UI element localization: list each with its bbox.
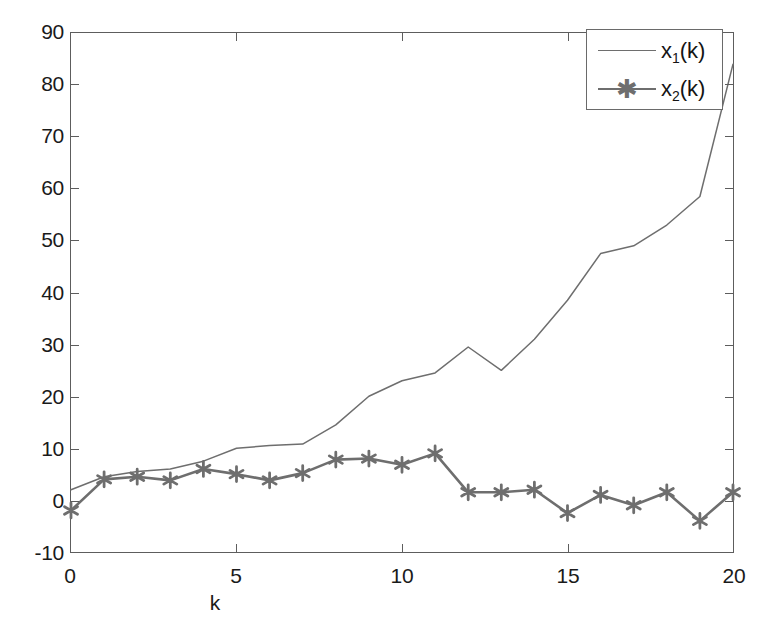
series-markers-x2(k) (65, 446, 740, 528)
legend-label-x1-tail: (k) (680, 38, 706, 63)
x-tick-label: 20 (723, 565, 746, 586)
x-tick-label: 5 (230, 565, 241, 586)
legend-entry-x1: x1(k) (587, 31, 722, 71)
y-tick-mark-right (725, 397, 734, 398)
legend-entry-x2: ✱ x2(k) (587, 69, 722, 109)
legend-label-x2-main: x (661, 76, 672, 101)
x-tick-label: 0 (64, 565, 75, 586)
y-tick-mark-right (725, 449, 734, 450)
y-tick-label: 90 (41, 21, 64, 42)
y-tick-mark (70, 397, 79, 398)
y-tick-mark-right (725, 84, 734, 85)
y-tick-mark-right (725, 188, 734, 189)
y-tick-label: 80 (41, 73, 64, 94)
legend-sample-x2: ✱ (595, 78, 659, 100)
y-tick-mark (70, 501, 79, 502)
y-tick-mark-right (725, 136, 734, 137)
x-axis-title-text: k (0, 591, 220, 614)
series-line-x1(k) (71, 64, 733, 490)
y-tick-mark-right (725, 240, 734, 241)
figure-canvas: -100102030405060708090 05101520 k x1(k) … (0, 0, 776, 640)
y-tick-mark (70, 449, 79, 450)
x-tick-mark (568, 544, 569, 553)
x-tick-mark-top (568, 32, 569, 41)
legend-box: x1(k) ✱ x2(k) (586, 29, 723, 110)
y-tick-mark (70, 240, 79, 241)
legend-label-x2-sub: 2 (672, 88, 680, 104)
plot-area (70, 32, 734, 553)
y-tick-mark (70, 188, 79, 189)
x-tick-mark (402, 544, 403, 553)
legend-label-x2: x2(k) (661, 78, 705, 100)
y-tick-mark-right (725, 345, 734, 346)
x-tick-label: 15 (557, 565, 580, 586)
series-x2(k) (65, 446, 740, 528)
y-tick-label: 0 (53, 490, 64, 511)
y-tick-label: 50 (41, 229, 64, 250)
y-tick-mark (70, 136, 79, 137)
x-tick-label: 10 (391, 565, 414, 586)
x-tick-mark-top (402, 32, 403, 41)
y-tick-label: 20 (41, 386, 64, 407)
y-tick-mark (70, 84, 79, 85)
legend-label-x1-sub: 1 (672, 50, 680, 66)
series-x1(k) (71, 64, 733, 490)
y-tick-mark-right (725, 293, 734, 294)
y-tick-label: 40 (41, 282, 64, 303)
legend-label-x1-main: x (661, 38, 672, 63)
y-tick-label: -10 (35, 542, 64, 563)
y-tick-mark-right (725, 501, 734, 502)
y-tick-label: 60 (41, 177, 64, 198)
y-tick-mark (70, 293, 79, 294)
legend-line-x1 (598, 50, 656, 51)
y-tick-label: 10 (41, 438, 64, 459)
y-tick-label: 30 (41, 334, 64, 355)
y-tick-label: 70 (41, 125, 64, 146)
x-axis-title: k (0, 592, 776, 613)
legend-label-x1: x1(k) (661, 40, 705, 62)
series-svg (71, 33, 733, 552)
x-tick-mark (236, 544, 237, 553)
legend-sample-x1 (595, 40, 659, 62)
y-tick-mark (70, 345, 79, 346)
legend-label-x2-tail: (k) (680, 76, 706, 101)
x-tick-mark-top (236, 32, 237, 41)
